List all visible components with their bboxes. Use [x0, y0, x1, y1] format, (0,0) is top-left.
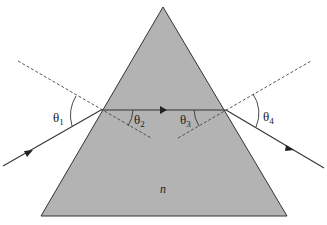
arrow-icon-outgoing	[285, 145, 294, 151]
arrow-icon-incoming	[24, 150, 33, 157]
label-refractive-index: n	[160, 182, 166, 196]
label-theta1: θ1	[53, 110, 64, 127]
label-theta4: θ4	[263, 109, 274, 126]
angle-arc-theta1	[71, 96, 76, 126]
prism-refraction-diagram: θ1 θ2 θ3 θ4 n	[0, 0, 327, 225]
angle-arc-theta4	[253, 94, 259, 127]
